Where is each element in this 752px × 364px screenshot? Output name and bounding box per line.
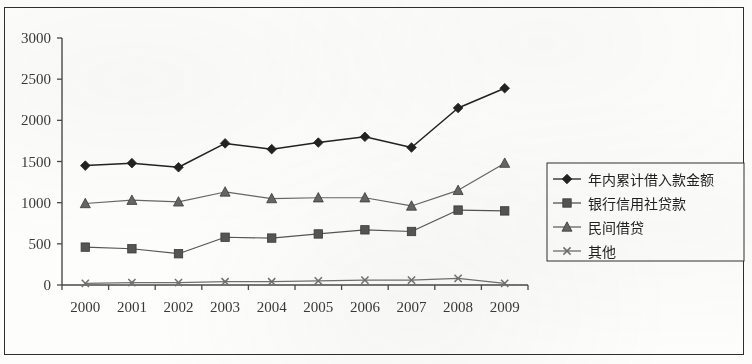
x-axis-tick-label: 2004 <box>257 299 288 315</box>
x-axis-tick-label: 2008 <box>443 299 473 315</box>
x-axis-tick-label: 2001 <box>117 299 147 315</box>
chart-series <box>81 206 509 258</box>
x-axis-tick-label: 2003 <box>210 299 240 315</box>
data-point-marker-diamond <box>267 144 277 154</box>
data-point-marker-diamond <box>500 83 510 93</box>
legend-item-label: 银行信用社贷款 <box>588 196 686 212</box>
series-line <box>85 163 504 206</box>
x-axis-tick-label: 2006 <box>350 299 381 315</box>
data-point-marker-diamond <box>314 138 324 148</box>
x-axis-tick-label: 2000 <box>70 299 100 315</box>
y-axis-tick-label: 2000 <box>21 112 51 128</box>
legend-item-label: 民间借贷 <box>588 220 644 236</box>
data-point-marker-square <box>454 206 462 214</box>
y-axis-tick-label: 0 <box>44 277 52 293</box>
data-point-marker-square <box>314 230 322 238</box>
y-axis-tick-label: 2500 <box>21 71 51 87</box>
y-axis-tick-label: 1500 <box>21 154 51 170</box>
chart-series <box>81 83 510 172</box>
y-axis-tick-label: 1000 <box>21 195 51 211</box>
data-point-marker-square <box>174 250 182 258</box>
chart-series <box>80 158 509 210</box>
data-point-marker-square <box>268 234 276 242</box>
y-axis-tick-label: 500 <box>29 236 52 252</box>
data-point-marker-triangle <box>453 185 463 194</box>
data-point-marker-diamond <box>174 162 184 172</box>
x-axis-tick-label: 2005 <box>303 299 333 315</box>
x-axis-tick-label: 2002 <box>164 299 194 315</box>
data-point-marker-square <box>128 245 136 253</box>
series-line <box>85 88 504 167</box>
data-point-marker-triangle <box>220 187 230 196</box>
data-point-marker-diamond <box>127 158 137 168</box>
data-point-marker-diamond <box>81 161 91 171</box>
data-point-marker-triangle <box>500 158 510 167</box>
data-point-marker-diamond <box>220 139 230 149</box>
data-point-marker-square <box>563 199 571 207</box>
y-axis-tick-label: 3000 <box>21 30 51 46</box>
data-point-marker-square <box>361 226 369 234</box>
chart-legend: 年内累计借入款金额银行信用社贷款民间借贷其他 <box>547 163 744 261</box>
data-point-marker-square <box>501 207 509 215</box>
data-point-marker-square <box>81 243 89 251</box>
x-axis-tick-label: 2007 <box>397 299 428 315</box>
x-axis-tick-label: 2009 <box>490 299 520 315</box>
data-point-marker-diamond <box>360 132 370 142</box>
chart-page: 3000250020001500100050002000200120022003… <box>0 0 752 364</box>
data-point-marker-square <box>221 233 229 241</box>
line-chart: 3000250020001500100050002000200120022003… <box>0 0 752 364</box>
series-line <box>85 210 504 254</box>
data-point-marker-square <box>407 227 415 235</box>
legend-item-label: 年内累计借入款金额 <box>588 172 714 188</box>
data-point-marker-triangle <box>127 195 137 204</box>
series-line <box>85 278 504 283</box>
legend-item-label: 其他 <box>588 244 616 260</box>
